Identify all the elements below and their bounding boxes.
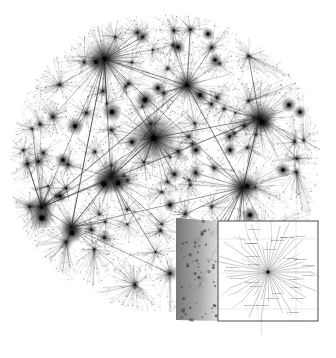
magnification-cone (176, 218, 218, 321)
topology-canvas: 12.123.1.163.218.7.6207.45.223.164.125.2… (0, 0, 336, 358)
inset-ip-label: 12.122.10.1 (302, 264, 315, 266)
inset-ip-label: 4.68.127.1 (272, 292, 284, 294)
inset-ip-label: 38.104.84.1 (264, 248, 277, 250)
inset-ip-label: 64.125.28.1 (287, 311, 300, 313)
magnified-router-detail: 12.123.1.163.218.7.6207.45.223.164.125.2… (206, 221, 319, 334)
inset-ip-label: 198.32.176.1 (247, 255, 261, 257)
inset-ip-label: 134.55.209.1 (226, 266, 240, 268)
inset-ip-label: 216.115.96.1 (244, 304, 258, 306)
inset-ip-label: 205.171.4.1 (249, 228, 262, 230)
inset-ip-label: 165.87.33.1 (302, 274, 315, 276)
inset-ip-label: 157.130.10.1 (271, 239, 285, 241)
inset-ip-label: 64.214.12.1 (293, 235, 306, 237)
inset-ip-label: 62.40.96.1 (230, 277, 242, 279)
inset-ip-label: 12.123.1.1 (289, 278, 301, 280)
inset-ip-label: 63.218.7.6 (290, 286, 302, 288)
inset-ip-label: 129.250.3.1 (250, 285, 263, 287)
inset-ip-label: 195.22.216.1 (266, 297, 280, 299)
inset-ip-label: 207.45.223.1 (291, 297, 305, 299)
inset-ip-label: 208.173.50.1 (256, 304, 270, 306)
inset-ip-label: 80.81.192.1 (248, 263, 261, 265)
inset-ip-label: 192.205.32.1 (294, 258, 308, 260)
inset-ip-label: 144.232.2.1 (245, 242, 259, 245)
inset-ip-label: 213.248.96.1 (245, 281, 259, 283)
network-topology-figure: 12.123.1.163.218.7.6207.45.223.164.125.2… (0, 0, 336, 358)
